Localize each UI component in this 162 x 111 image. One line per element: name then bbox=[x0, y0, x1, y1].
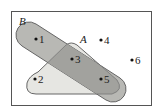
point-label: 1 bbox=[39, 33, 45, 45]
point-dot bbox=[99, 77, 102, 80]
point-label: 6 bbox=[135, 54, 141, 66]
set-b-label: B bbox=[19, 15, 26, 27]
point-label: 3 bbox=[75, 53, 81, 65]
point-dot bbox=[70, 57, 73, 60]
point-dot bbox=[130, 58, 133, 61]
set-a-label: A bbox=[79, 33, 87, 45]
point-dot bbox=[33, 77, 36, 80]
point-label: 4 bbox=[104, 34, 110, 46]
point-label: 5 bbox=[104, 73, 110, 85]
venn-diagram: B A 1 2 3 4 5 6 bbox=[0, 0, 162, 111]
point-label: 2 bbox=[38, 73, 44, 85]
point-dot bbox=[99, 38, 102, 41]
point-dot bbox=[34, 37, 37, 40]
